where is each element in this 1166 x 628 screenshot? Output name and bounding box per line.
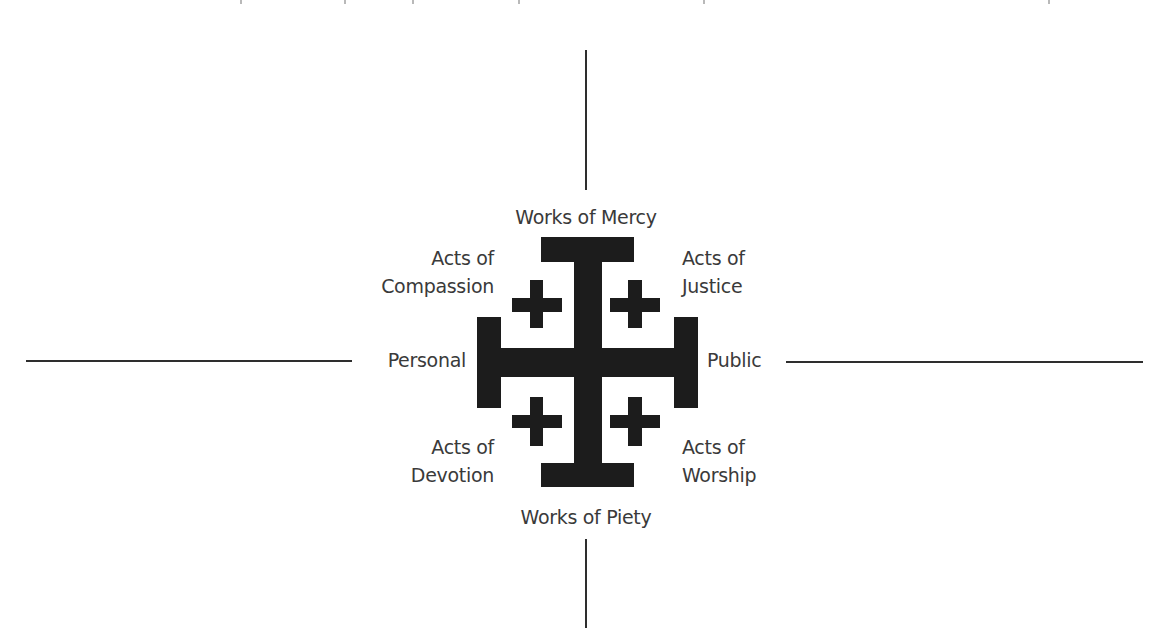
- axis-label-top: Works of Mercy: [481, 203, 691, 231]
- quadrant-label-line: Acts of: [350, 433, 494, 461]
- small-cross-horizontal: [512, 415, 562, 428]
- text-fragment: [412, 0, 414, 4]
- cross-right-bar: [674, 317, 698, 408]
- quadrant-label-line: Devotion: [350, 461, 494, 489]
- text-fragment: [240, 0, 242, 4]
- axis-label-bottom: Works of Piety: [481, 503, 691, 531]
- text-fragment: [703, 0, 705, 4]
- quadrant-label-line: Acts of: [682, 244, 802, 272]
- quadrant-label-line: Acts of: [682, 433, 802, 461]
- quadrant-label-bottom-right: Acts of Worship: [682, 433, 802, 489]
- cross-left-bar: [477, 317, 501, 408]
- text-fragment: [344, 0, 346, 4]
- diagram-canvas: Works of Mercy Works of Piety Personal P…: [0, 0, 1166, 628]
- axis-line-top: [585, 50, 587, 190]
- text-fragment: [518, 0, 520, 4]
- quadrant-label-top-left: Acts of Compassion: [350, 244, 494, 300]
- axis-line-right: [786, 361, 1143, 363]
- small-cross-horizontal: [512, 298, 562, 312]
- quadrant-label-line: Worship: [682, 461, 802, 489]
- axis-line-bottom: [585, 539, 587, 628]
- axis-line-left: [26, 360, 352, 362]
- quadrant-label-line: Compassion: [350, 272, 494, 300]
- quadrant-label-line: Acts of: [350, 244, 494, 272]
- quadrant-label-line: Justice: [682, 272, 802, 300]
- text-fragment: [1048, 0, 1050, 4]
- quadrant-label-bottom-left: Acts of Devotion: [350, 433, 494, 489]
- cross-horizontal-arm: [477, 348, 698, 377]
- small-cross-horizontal: [610, 298, 660, 312]
- quadrant-label-top-right: Acts of Justice: [682, 244, 802, 300]
- small-cross-horizontal: [610, 415, 660, 428]
- axis-label-left: Personal: [360, 346, 466, 374]
- axis-label-right: Public: [707, 346, 787, 374]
